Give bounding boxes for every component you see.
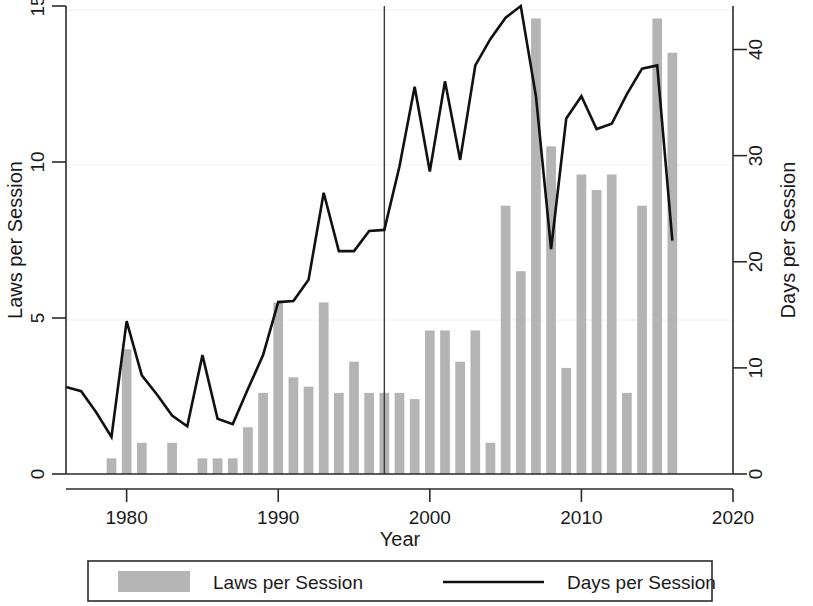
bar-2005 (501, 206, 511, 474)
bar-1983 (167, 443, 177, 474)
bar-2004 (486, 443, 496, 474)
legend-label-days: Days per Session (567, 572, 716, 593)
bar-1989 (258, 393, 268, 474)
bar-2010 (577, 174, 587, 474)
bar-2000 (425, 330, 435, 474)
left-tick-label-10: 10 (27, 151, 48, 172)
bar-1985 (198, 458, 208, 474)
left-tick-label-0: 0 (27, 469, 48, 480)
bottom-tick-label-2010: 2010 (560, 507, 602, 528)
right-tick-label-30: 30 (745, 145, 766, 166)
left-axis-ticks: 051015 (27, 0, 66, 479)
bottom-tick-label-2020: 2020 (712, 507, 754, 528)
right-tick-label-10: 10 (745, 357, 766, 378)
bar-1986 (213, 458, 223, 474)
right-tick-label-0: 0 (745, 469, 766, 480)
bar-1998 (395, 393, 405, 474)
bar-2012 (607, 174, 617, 474)
bar-2007 (531, 18, 541, 474)
bar-2011 (592, 190, 602, 474)
x-axis-title: Year (380, 528, 421, 550)
bar-1994 (334, 393, 344, 474)
bar-2009 (561, 368, 571, 474)
bar-2014 (637, 206, 647, 474)
bar-2003 (470, 330, 480, 474)
bar-1987 (228, 458, 238, 474)
legend-label-laws: Laws per Session (213, 572, 363, 593)
bar-1995 (349, 362, 359, 474)
bottom-tick-label-2000: 2000 (409, 507, 451, 528)
right-tick-label-40: 40 (745, 39, 766, 60)
bar-1979 (107, 458, 117, 474)
bar-1990 (273, 302, 283, 474)
bar-1996 (364, 393, 374, 474)
bar-1993 (319, 302, 329, 474)
y2-axis-title: Days per Session (777, 162, 799, 319)
bar-1991 (289, 377, 299, 474)
bar-2013 (622, 393, 632, 474)
bar-1988 (243, 427, 253, 474)
bar-2016 (668, 53, 678, 474)
right-axis-ticks: 010203040 (733, 39, 766, 479)
bar-2006 (516, 271, 526, 474)
chart-legend: Laws per Session Days per Session (88, 561, 716, 601)
bar-2008 (546, 146, 556, 474)
left-tick-label-15: 15 (27, 0, 48, 17)
bottom-tick-label-1990: 1990 (257, 507, 299, 528)
bar-2015 (652, 18, 662, 474)
bar-2002 (455, 362, 465, 474)
chart-figure: 051015 010203040 19801990200020102020 La… (0, 0, 813, 606)
y-axis-title: Laws per Session (4, 161, 26, 319)
bottom-axis-ticks: 19801990200020102020 (105, 489, 754, 528)
bar-1999 (410, 399, 420, 474)
bar-1992 (304, 387, 314, 474)
bottom-tick-label-1980: 1980 (105, 507, 147, 528)
bar-1981 (137, 443, 147, 474)
bar-1980 (122, 349, 132, 474)
left-tick-label-5: 5 (27, 313, 48, 324)
legend-swatch-laws (118, 571, 190, 592)
right-tick-label-20: 20 (745, 251, 766, 272)
laws-and-days-per-session-chart: 051015 010203040 19801990200020102020 La… (0, 0, 813, 606)
bar-2001 (440, 330, 450, 474)
